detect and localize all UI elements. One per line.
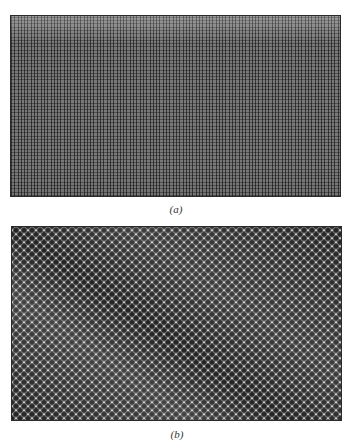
panel-a-caption: (a) xyxy=(146,203,206,215)
figure-panel-b-image xyxy=(11,226,342,421)
panel-b-caption: (b) xyxy=(147,428,207,440)
figure-panel-a-image xyxy=(10,15,341,197)
